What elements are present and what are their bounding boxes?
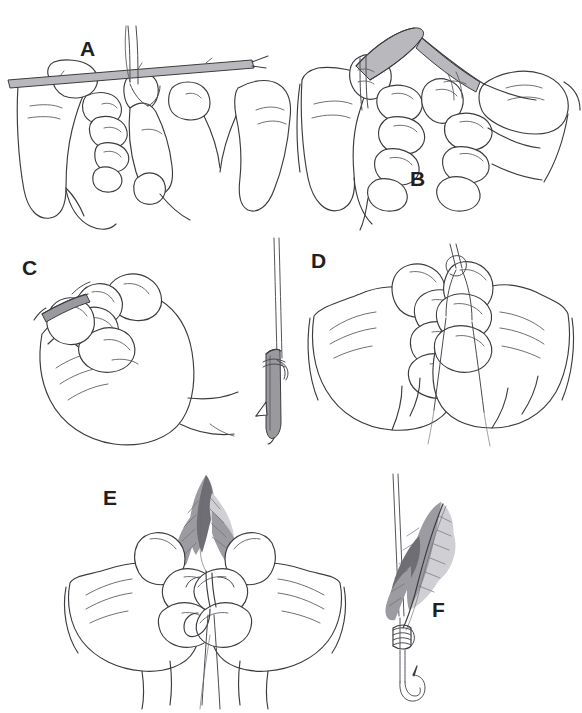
fly-tying-figure: A (0, 0, 582, 713)
right-hand-d (433, 262, 574, 428)
thread-wrap-f (393, 625, 414, 649)
panel-c (20, 248, 260, 448)
hook-shank-detail (256, 349, 281, 444)
panel-label-a: A (80, 38, 96, 59)
right-hand-e (194, 533, 345, 709)
right-hand-a (124, 73, 291, 220)
panel-a (0, 18, 300, 233)
panel-f (355, 470, 505, 705)
panel-label-d: D (311, 250, 327, 271)
panel-label-f: F (432, 599, 445, 620)
panel-d (300, 238, 582, 450)
panel-label-c: C (22, 257, 38, 278)
tippet-line (274, 238, 282, 358)
right-hand-b (422, 71, 580, 211)
panel-label-e: E (103, 487, 118, 508)
left-hand-e (65, 533, 216, 709)
panel-b (288, 22, 582, 234)
panel-label-b: B (410, 168, 426, 189)
hook-detail-inset (248, 236, 308, 448)
